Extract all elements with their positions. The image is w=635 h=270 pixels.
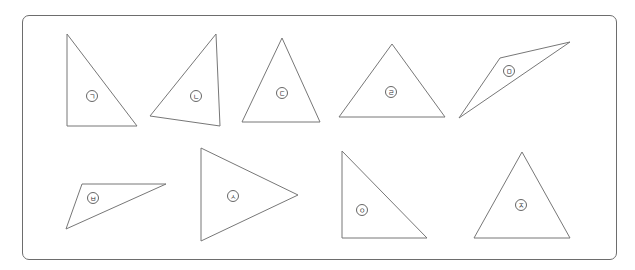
triangle-4: ㄹ — [339, 44, 445, 117]
triangle-label: ㄹ — [388, 89, 394, 97]
triangle-7: ㅅ — [201, 148, 298, 241]
triangle-shape — [66, 184, 166, 229]
triangle-shape — [242, 38, 320, 122]
triangle-shape — [67, 34, 137, 126]
triangle-shape — [342, 151, 427, 238]
triangle-label: ㅁ — [506, 68, 512, 76]
triangle-8: ㅇ — [342, 151, 427, 238]
triangle-shape — [339, 44, 445, 117]
triangle-label: ㅂ — [90, 195, 96, 203]
triangle-label: ㅇ — [359, 207, 365, 215]
triangle-label: ㄱ — [89, 93, 95, 101]
triangle-5: ㅁ — [459, 42, 570, 118]
triangle-label: ㅅ — [230, 193, 236, 201]
triangle-shape — [474, 152, 570, 238]
triangle-label: ㄷ — [279, 90, 285, 98]
triangle-label: ㄴ — [193, 93, 199, 101]
triangle-3: ㄷ — [242, 38, 320, 122]
triangle-shape — [459, 42, 570, 118]
triangle-9: ㅈ — [474, 152, 570, 238]
triangle-1: ㄱ — [67, 34, 137, 126]
triangle-shape — [150, 34, 220, 126]
triangle-2: ㄴ — [150, 34, 220, 126]
triangle-label: ㅈ — [518, 202, 524, 210]
triangles-diagram: ㄱㄴㄷㄹㅁㅂㅅㅇㅈ — [0, 0, 635, 270]
triangle-shape — [201, 148, 298, 241]
triangle-6: ㅂ — [66, 184, 166, 229]
